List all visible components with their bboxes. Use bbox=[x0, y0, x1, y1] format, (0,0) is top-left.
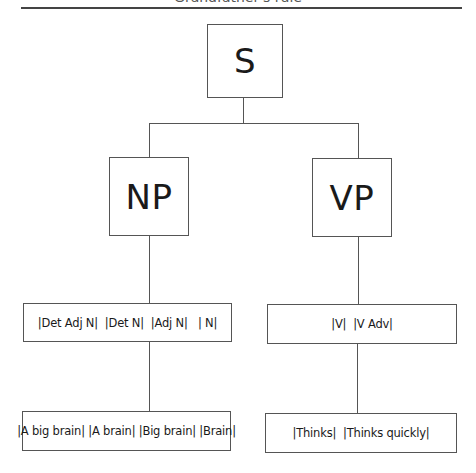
node-np-label: NP bbox=[126, 177, 173, 217]
connector-vp-to-rules bbox=[358, 237, 359, 304]
vp-examples-text: |Thinks| |Thinks quickly| bbox=[293, 426, 430, 440]
title-rule bbox=[21, 7, 462, 9]
np-examples-text: |A big brain| |A brain| |Big brain| |Bra… bbox=[17, 424, 236, 438]
np-rules-text: |Det Adj N| |Det N| |Adj N| | N| bbox=[38, 316, 217, 330]
node-vp-label: VP bbox=[330, 178, 375, 218]
connector-s-down bbox=[243, 98, 244, 124]
connector-to-vp bbox=[358, 123, 359, 158]
node-np: NP bbox=[109, 157, 189, 236]
connector-vp-rules-to-examples bbox=[357, 344, 358, 413]
connector-to-np bbox=[149, 123, 150, 157]
node-s: S bbox=[207, 24, 283, 98]
diagram-title: Grandfather's rule bbox=[0, 0, 476, 4]
connector-np-rules-to-examples bbox=[149, 342, 150, 411]
np-rules-box: |Det Adj N| |Det N| |Adj N| | N| bbox=[23, 303, 232, 342]
vp-rules-text: |V| |V Adv| bbox=[331, 317, 393, 331]
connector-branch-horizontal bbox=[149, 123, 359, 124]
node-s-label: S bbox=[234, 41, 256, 81]
vp-examples-box: |Thinks| |Thinks quickly| bbox=[265, 413, 457, 453]
np-examples-box: |A big brain| |A brain| |Big brain| |Bra… bbox=[22, 411, 231, 451]
connector-np-to-rules bbox=[149, 236, 150, 303]
vp-rules-box: |V| |V Adv| bbox=[267, 304, 457, 344]
node-vp: VP bbox=[312, 158, 392, 237]
title-clip: Grandfather's rule bbox=[0, 0, 476, 4]
